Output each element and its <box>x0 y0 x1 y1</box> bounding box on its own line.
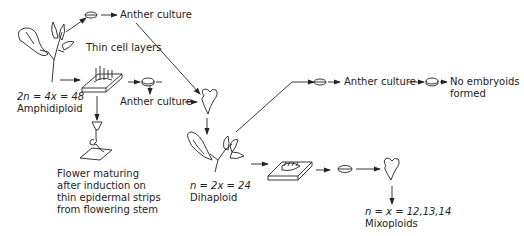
culture-slab-icon <box>268 162 312 180</box>
flower-on-slab-icon <box>80 122 112 160</box>
petri-dish-icon <box>338 166 352 173</box>
anther-culture-top-label: Anther culture <box>120 9 192 21</box>
dihaploid-name: Dihaploid <box>190 192 237 204</box>
anther-culture-right-label: Anther culture <box>344 76 416 88</box>
petri-dish-icon <box>314 79 326 85</box>
amphidiploid-plant-icon <box>18 22 74 82</box>
no-embryoids-label: No embryoids formed <box>450 76 524 100</box>
amphidiploid-name: Amphidiploid <box>17 103 83 115</box>
flower-maturing-label: Flower maturing after induction on thin … <box>57 168 177 216</box>
mixoploid-formula: n = x = 12,13,14 <box>365 206 451 218</box>
culture-slab-icon <box>82 66 122 92</box>
dihaploid-formula: n = 2x = 24 <box>190 180 251 192</box>
mixoploid-name: Mixoploids <box>365 218 418 230</box>
anther-culture-mid-label: Anther culture <box>120 96 192 108</box>
heart-embryoid-icon <box>202 89 217 114</box>
petri-dish-icon <box>142 78 154 86</box>
thin-cell-layers-label: Thin cell layers <box>86 42 161 54</box>
amphidiploid-formula: 2n = 4x = 48 <box>17 91 84 103</box>
heart-embryoid-icon <box>384 158 399 180</box>
dihaploid-plant-icon <box>188 132 245 172</box>
petri-dish-icon <box>85 12 97 18</box>
petri-dish-icon <box>426 78 438 86</box>
